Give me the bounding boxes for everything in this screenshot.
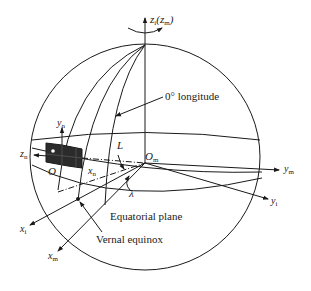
coordinate-frame-diagram: zi(zm) 0° longitude yn zn O xn L Om ym y… bbox=[0, 0, 311, 291]
zero-longitude-label: 0° longitude bbox=[165, 91, 219, 102]
equatorial-plane-label: Equatorial plane bbox=[110, 211, 182, 222]
z-axis-label: zi(zm) bbox=[150, 14, 173, 27]
vernal-equinox-label: Vernal equinox bbox=[96, 234, 163, 245]
zero-longitude-pointer bbox=[116, 97, 163, 116]
x-n-label: xn bbox=[88, 166, 96, 178]
diagram-graphics bbox=[0, 0, 311, 291]
vernal-equinox-point bbox=[76, 197, 80, 201]
y-n-label: yn bbox=[57, 118, 65, 130]
l-angle-arrow bbox=[118, 155, 124, 169]
x-i-label: xi bbox=[20, 224, 26, 236]
latitude-circle bbox=[32, 133, 260, 141]
vernal-equinox-pointer bbox=[80, 202, 102, 232]
o-m-label: Om bbox=[145, 151, 158, 164]
lambda-label: λ bbox=[129, 188, 134, 199]
y-i-label: yi bbox=[271, 196, 277, 208]
z-n-label: zn bbox=[20, 149, 27, 161]
origin-o-label: O bbox=[48, 166, 56, 177]
y-m-label: ym bbox=[284, 164, 294, 176]
x-m-label: xm bbox=[48, 251, 58, 263]
l-angle-label: L bbox=[117, 140, 123, 151]
